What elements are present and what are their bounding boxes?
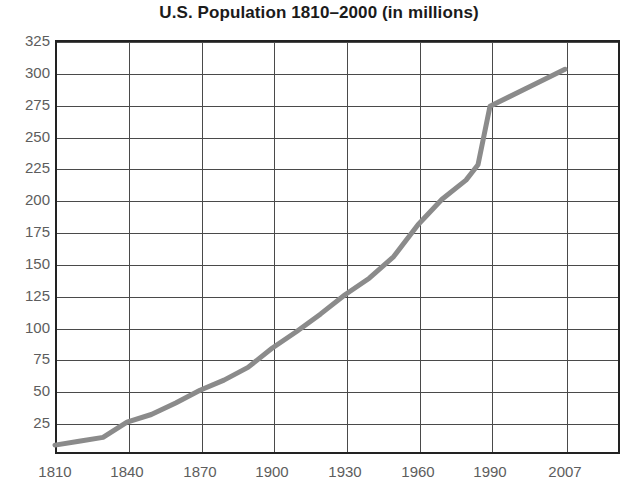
x-axis-tick-label: 1870 (170, 464, 230, 479)
x-axis-tick-label: 1810 (25, 464, 85, 479)
chart-container: U.S. Population 1810–2000 (in millions) … (0, 0, 638, 495)
x-axis-tick-label: 2007 (535, 464, 595, 479)
x-axis: 18101840187019001930196019902007 (0, 0, 638, 495)
x-axis-tick-label: 1930 (315, 464, 375, 479)
x-axis-tick-label: 1840 (97, 464, 157, 479)
x-axis-tick-label: 1990 (460, 464, 520, 479)
x-axis-tick-label: 1960 (388, 464, 448, 479)
x-axis-tick-label: 1900 (242, 464, 302, 479)
